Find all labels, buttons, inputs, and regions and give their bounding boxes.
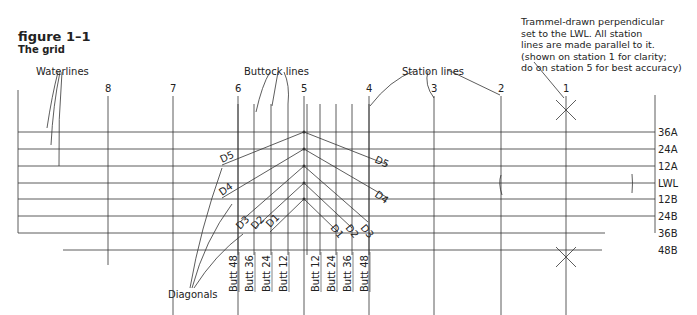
buttock-label: Butt 36 xyxy=(244,255,255,292)
station-label: 4 xyxy=(366,83,372,94)
callout-arrow xyxy=(192,204,232,288)
station-label: 7 xyxy=(170,83,176,94)
diagonal-apex-dot xyxy=(303,131,306,134)
diagonal-label: D2 xyxy=(343,222,360,240)
waterline-label: 36A xyxy=(658,127,678,138)
diagonal-apex-dot xyxy=(303,182,306,185)
diagonal-d4 xyxy=(222,149,388,198)
station-label: 3 xyxy=(431,83,437,94)
callout-arrow xyxy=(534,62,564,98)
waterline-label: 12B xyxy=(658,194,678,205)
callout-arrow xyxy=(272,72,278,106)
callout-arrow xyxy=(370,71,414,106)
buttock-label: Butt 48 xyxy=(359,255,370,292)
buttock-label: Butt 24 xyxy=(261,255,272,292)
diagonal-apex-dot xyxy=(303,198,306,201)
station-label: 6 xyxy=(235,83,241,94)
diagonal-label: D5 xyxy=(373,154,390,170)
callout-arrow xyxy=(448,70,500,95)
waterline-label: 36B xyxy=(658,228,678,239)
waterline-label: 48B xyxy=(658,245,678,256)
station-label: 1 xyxy=(563,83,569,94)
waterline-label: 24B xyxy=(658,211,678,222)
callout-arrow xyxy=(59,72,62,166)
buttock-label: Butt 12 xyxy=(278,255,289,292)
station-label: 5 xyxy=(301,83,307,94)
waterline-label: LWL xyxy=(658,178,679,189)
waterline-label: 12A xyxy=(658,161,678,172)
buttock-label: Butt 36 xyxy=(342,255,353,292)
diagonal-apex-dot xyxy=(303,165,306,168)
waterline-label: 24A xyxy=(658,144,678,155)
callout-arrow xyxy=(190,168,222,288)
diagonal-label: D5 xyxy=(218,149,235,165)
lines-grid-diagram: 36A24A12ALWL12B24B36B48B87654321Butt 48B… xyxy=(0,0,697,315)
station-label: 2 xyxy=(498,83,504,94)
diagonal-label: D1 xyxy=(264,212,282,230)
buttock-label: Butt 24 xyxy=(326,255,337,292)
station-label: 8 xyxy=(105,83,111,94)
buttock-label: Butt 48 xyxy=(228,255,239,292)
callout-arrow xyxy=(284,72,289,104)
diagonal-label: D4 xyxy=(373,189,391,206)
trammel-arc-tick xyxy=(632,174,633,193)
callout-arrow xyxy=(256,72,270,112)
diagonal-label: D3 xyxy=(358,222,375,240)
buttock-label: Butt 12 xyxy=(310,255,321,292)
diagonal-apex-dot xyxy=(303,148,306,151)
